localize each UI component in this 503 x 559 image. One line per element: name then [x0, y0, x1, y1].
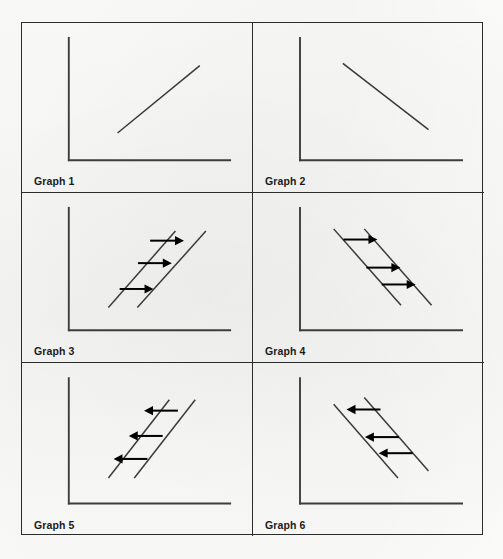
shift-arrow-right [120, 284, 154, 293]
graph-cell-4: Graph 4 [253, 193, 484, 363]
shift-arrow-left [114, 454, 148, 463]
shift-arrow-right [138, 259, 172, 268]
graph-cell-2: Graph 2 [253, 23, 484, 193]
shift-arrow-left [346, 405, 380, 414]
curve-line-1 [343, 63, 429, 129]
curve-line-shifted [137, 231, 206, 307]
graph-plot-6 [253, 363, 484, 536]
shift-arrow-left [365, 432, 399, 441]
graph-plot-3 [22, 193, 252, 362]
curve-line-shifted [364, 397, 428, 471]
graph-plot-1 [22, 23, 252, 192]
figure-page: Graph 1 Graph 2 Graph 3 Graph 4 Graph 5 … [0, 0, 503, 559]
graph-label-2: Graph 2 [265, 176, 305, 187]
graph-label-4: Graph 4 [265, 346, 305, 357]
graph-cell-5: Graph 5 [22, 363, 253, 536]
curve-line-1 [118, 66, 200, 133]
graph-cell-1: Graph 1 [22, 23, 253, 193]
shift-arrow-right [343, 235, 377, 244]
graph-plot-2 [253, 23, 484, 192]
curve-line-original [108, 231, 175, 307]
graph-label-1: Graph 1 [34, 176, 74, 187]
graph-grid: Graph 1 Graph 2 Graph 3 Graph 4 Graph 5 … [21, 22, 483, 535]
shift-arrow-left [129, 431, 163, 440]
graph-label-5: Graph 5 [34, 520, 74, 531]
curve-line-original [334, 404, 398, 478]
graph-cell-3: Graph 3 [22, 193, 253, 363]
graph-plot-5 [22, 363, 252, 536]
graph-plot-4 [253, 193, 484, 362]
graph-label-3: Graph 3 [34, 346, 74, 357]
graph-label-6: Graph 6 [265, 520, 305, 531]
shift-arrow-left [144, 406, 178, 415]
graph-cell-6: Graph 6 [253, 363, 484, 536]
shift-arrow-left [379, 449, 413, 458]
shift-arrow-right [150, 236, 184, 245]
